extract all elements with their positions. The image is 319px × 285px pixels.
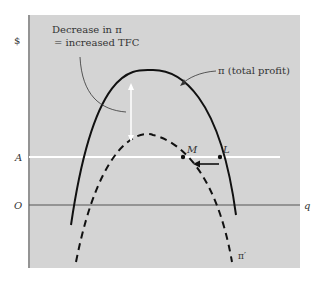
point-l-label: L — [222, 144, 230, 155]
point-m — [181, 155, 185, 159]
pi-prime-label: π′ — [238, 251, 246, 261]
plot-panel — [28, 15, 300, 268]
y-axis-label: $ — [14, 35, 20, 46]
origin-label: O — [14, 200, 22, 211]
point-l — [218, 155, 222, 159]
x-axis-label: q — [304, 200, 310, 211]
point-m-label: M — [186, 144, 198, 155]
annotation-line2: = increased TFC — [54, 37, 140, 48]
pi-curve-label: π (total profit) — [218, 65, 290, 76]
profit-diagram: $ O q A Decrease in π = increased TFC π … — [0, 0, 319, 285]
annotation-line1: Decrease in π — [52, 24, 122, 35]
level-a-label: A — [14, 152, 22, 163]
